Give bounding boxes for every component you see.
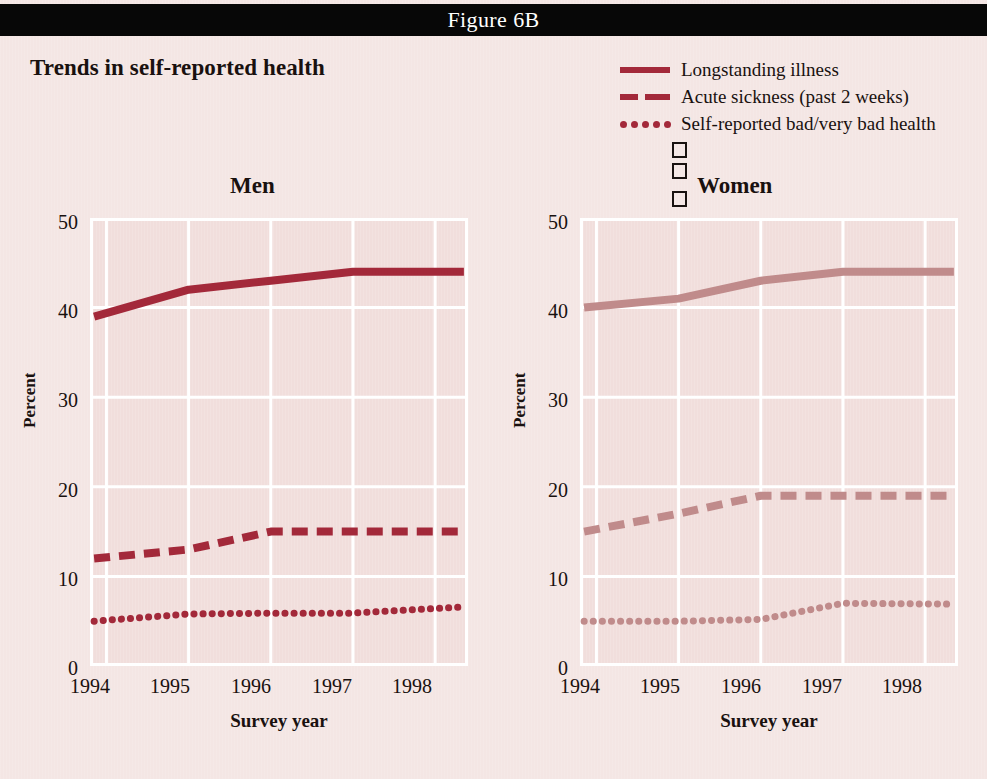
legend-stray-glyphs bbox=[672, 142, 687, 158]
chart-panel-men: Percent 50 40 30 20 10 0 1994 1995 1996 … bbox=[22, 210, 492, 740]
y-tick: 20 bbox=[34, 480, 78, 500]
figure-label: Figure 6B bbox=[447, 9, 539, 31]
x-axis-title-men: Survey year bbox=[90, 710, 468, 732]
legend-dotted-line-icon bbox=[618, 112, 672, 135]
figure-root: Figure 6B Trends in self-reported health… bbox=[0, 0, 987, 779]
y-tick: 20 bbox=[524, 480, 568, 500]
plot-area-men bbox=[90, 218, 468, 666]
legend-item-acute-sickness: Acute sickness (past 2 weeks) bbox=[618, 85, 936, 108]
x-tick: 1998 bbox=[377, 676, 447, 696]
x-tick: 1998 bbox=[867, 676, 937, 696]
y-tick: 50 bbox=[34, 212, 78, 232]
y-tick: 40 bbox=[524, 301, 568, 321]
x-tick: 1995 bbox=[625, 676, 695, 696]
page-title: Trends in self-reported health bbox=[30, 55, 325, 81]
x-tick: 1997 bbox=[297, 676, 367, 696]
x-tick: 1996 bbox=[706, 676, 776, 696]
y-tick: 50 bbox=[524, 212, 568, 232]
x-tick: 1994 bbox=[545, 676, 615, 696]
legend-item-longstanding-illness: Longstanding illness bbox=[618, 58, 936, 81]
plot-area-women bbox=[580, 218, 958, 666]
x-axis-title-women: Survey year bbox=[580, 710, 958, 732]
women-stray-glyphs bbox=[672, 163, 687, 207]
x-tick: 1997 bbox=[787, 676, 857, 696]
chart-panel-women: Percent 50 40 30 20 10 0 1994 1995 1996 … bbox=[512, 210, 982, 740]
panel-title-women: Women bbox=[697, 173, 772, 199]
y-tick: 40 bbox=[34, 301, 78, 321]
y-tick: 10 bbox=[34, 569, 78, 589]
figure-header-bar: Figure 6B bbox=[0, 4, 987, 36]
legend-label: Longstanding illness bbox=[681, 60, 839, 79]
x-tick: 1996 bbox=[216, 676, 286, 696]
x-tick: 1994 bbox=[55, 676, 125, 696]
legend-dashed-line-icon bbox=[618, 85, 672, 108]
missing-glyph-box-icon bbox=[672, 142, 687, 158]
x-tick: 1995 bbox=[135, 676, 205, 696]
legend-label: Acute sickness (past 2 weeks) bbox=[681, 87, 909, 106]
panel-title-men: Men bbox=[230, 173, 275, 199]
missing-glyph-box-icon bbox=[672, 191, 687, 207]
chart-legend: Longstanding illness Acute sickness (pas… bbox=[618, 58, 936, 135]
legend-label: Self-reported bad/very bad health bbox=[681, 114, 936, 133]
y-tick: 10 bbox=[524, 569, 568, 589]
missing-glyph-box-icon bbox=[672, 163, 687, 179]
y-tick: 30 bbox=[524, 390, 568, 410]
y-tick: 30 bbox=[34, 390, 78, 410]
legend-item-bad-health: Self-reported bad/very bad health bbox=[618, 112, 936, 135]
legend-solid-line-icon bbox=[618, 58, 672, 81]
